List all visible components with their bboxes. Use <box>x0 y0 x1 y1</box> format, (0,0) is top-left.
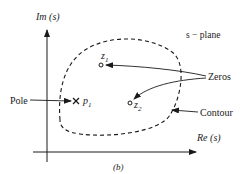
contour-arrow <box>172 110 198 112</box>
zeros-arrow-to-z1 <box>106 65 206 76</box>
zero-z2-marker <box>128 101 132 105</box>
zero-z2-label: z2 <box>133 99 142 113</box>
pole-callout-label: Pole <box>10 95 28 106</box>
real-axis-label: Re (s) <box>196 132 221 144</box>
zeros-callout-label: Zeros <box>208 71 231 82</box>
pole-arrow <box>30 100 71 101</box>
contour-callout-label: Contour <box>200 107 233 118</box>
s-plane-label: s − plane <box>186 30 220 40</box>
pole-p1-label: p1 <box>82 95 92 109</box>
figure-caption: (b) <box>113 162 124 172</box>
contour-curve <box>60 39 182 135</box>
s-plane-diagram: z1 z2 p1 Zeros Pole Contour Im (s) Re (s… <box>0 0 244 174</box>
zeros-arrow-to-z2 <box>134 78 206 99</box>
pole-p1-marker <box>73 98 79 104</box>
imaginary-axis-label: Im (s) <box>35 11 60 23</box>
zero-z1-marker <box>99 63 103 67</box>
zero-z1-label: z1 <box>100 50 108 64</box>
